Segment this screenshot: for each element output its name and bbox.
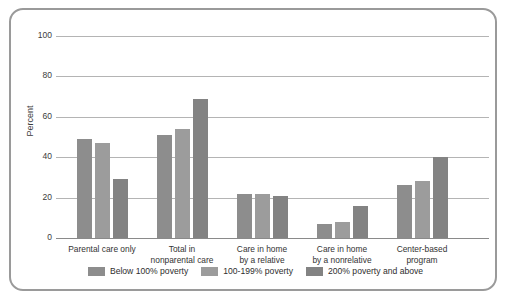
gridline: [56, 36, 489, 37]
legend-swatch: [201, 267, 218, 276]
legend-item: Below 100% poverty: [88, 266, 188, 276]
legend-label: 200% poverty and above: [328, 266, 423, 276]
bar: [433, 157, 448, 238]
legend-swatch: [88, 267, 105, 276]
bar: [335, 222, 350, 238]
bar: [353, 206, 368, 238]
bar: [255, 194, 270, 238]
legend-label: Below 100% poverty: [110, 266, 188, 276]
y-tick-label: 40: [26, 152, 52, 161]
y-tick-label: 80: [26, 71, 52, 80]
chart-legend: Below 100% poverty100-199% poverty200% p…: [0, 266, 511, 276]
bar: [237, 194, 252, 238]
bar: [415, 181, 430, 238]
legend-label: 100-199% poverty: [223, 266, 293, 276]
y-tick-label: 0: [26, 233, 52, 242]
plot-area: [56, 36, 489, 238]
gridline: [56, 76, 489, 77]
legend-item: 200% poverty and above: [306, 266, 423, 276]
y-tick-label: 100: [26, 31, 52, 40]
legend-item: 100-199% poverty: [201, 266, 293, 276]
bar: [77, 139, 92, 238]
legend-swatch: [306, 267, 323, 276]
bar: [193, 99, 208, 238]
bar: [95, 143, 110, 238]
bar: [273, 196, 288, 238]
x-axis-line: [56, 238, 489, 239]
bar: [317, 224, 332, 238]
bar: [113, 179, 128, 238]
gridline: [56, 117, 489, 118]
y-tick-label: 60: [26, 112, 52, 121]
bar: [397, 185, 412, 238]
y-axis-ticks: 020406080100: [22, 36, 52, 238]
gridline: [56, 157, 489, 158]
y-tick-label: 20: [26, 193, 52, 202]
bar: [157, 135, 172, 238]
x-axis-group-label: Center-based program: [362, 244, 482, 265]
bar-chart: Percent 020406080100 Below 100% poverty1…: [0, 0, 511, 307]
bar: [175, 129, 190, 238]
